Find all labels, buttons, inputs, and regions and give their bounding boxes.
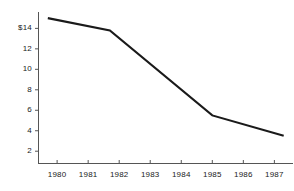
y-axis-tick-label: 4	[8, 126, 32, 135]
x-axis-tick-label: 1982	[102, 170, 136, 179]
x-axis-tick-label: 1985	[195, 170, 229, 179]
y-axis-tick-label: $14	[8, 23, 32, 32]
y-axis-tick-label: 6	[8, 105, 32, 114]
x-axis-tick-label: 1980	[40, 170, 74, 179]
chart-plot-area	[0, 0, 294, 191]
y-axis-tick-label: 8	[8, 85, 32, 94]
y-axis-ticks	[35, 28, 39, 151]
x-axis-tick-label: 1987	[257, 170, 291, 179]
x-axis-ticks	[57, 160, 274, 164]
y-axis-tick-label: 10	[8, 64, 32, 73]
chart-axes	[38, 12, 293, 164]
data-series-line	[48, 18, 284, 136]
x-axis-tick-label: 1983	[133, 170, 167, 179]
y-axis-tick-label: 2	[8, 146, 32, 155]
line-chart: $1412108642 1980198119821983198419851986…	[0, 0, 294, 191]
y-axis-tick-label: 12	[8, 44, 32, 53]
x-axis-tick-label: 1986	[226, 170, 260, 179]
x-axis-tick-label: 1984	[164, 170, 198, 179]
x-axis-tick-label: 1981	[71, 170, 105, 179]
